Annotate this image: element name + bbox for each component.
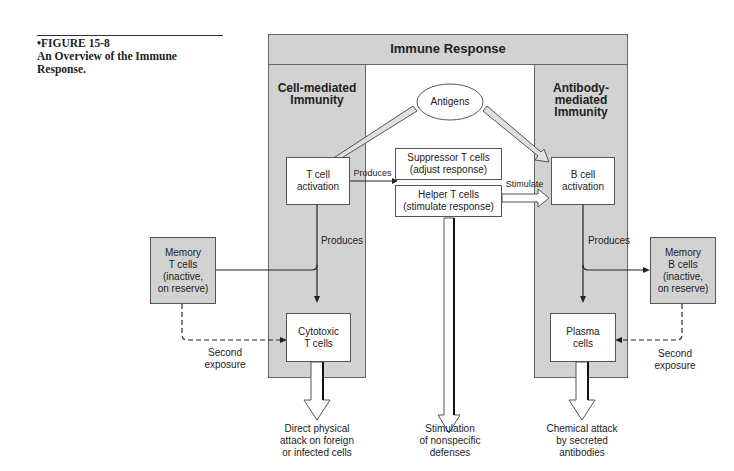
suppressor-t-cells-box: Suppressor T cells (adjust response): [395, 148, 502, 180]
b-cell-activation-box: B cell activation: [551, 157, 615, 205]
cytotoxic-t-cells-box: Cytotoxic T cells: [286, 313, 351, 362]
produces-label-right: Produces: [585, 235, 633, 247]
produces-label-left: Produces: [318, 235, 366, 247]
outcome-nonspecific-defenses: Stimulation of nonspecific defenses: [405, 423, 495, 459]
second-exposure-right: Second exposure: [645, 348, 705, 372]
outcome-chemical-attack: Chemical attack by secreted antibodies: [537, 423, 627, 459]
second-exposure-left: Second exposure: [195, 347, 255, 371]
t-cell-activation-box: T cell activation: [286, 157, 350, 205]
outcome-direct-physical-attack: Direct physical attack on foreign or inf…: [272, 423, 362, 459]
produces-label-suppressor: Produces: [350, 167, 395, 179]
antigens-node: Antigens: [417, 96, 483, 108]
memory-b-cells-box: Memory B cells (inactive, on reserve): [650, 237, 716, 304]
plasma-cells-box: Plasma cells: [550, 313, 616, 362]
helper-t-cells-box: Helper T cells (stimulate response): [395, 185, 502, 217]
stimulate-label: Stimulate: [502, 178, 547, 190]
memory-t-cells-box: Memory T cells (inactive, on reserve): [150, 237, 216, 304]
